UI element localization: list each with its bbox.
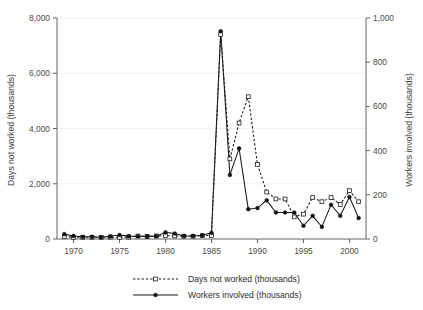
y-axis-right-tick-label: 1,000	[373, 13, 394, 23]
y-axis-right-tick-label: 800	[373, 57, 387, 67]
data-point-marker	[182, 234, 186, 238]
data-point-marker	[320, 200, 324, 204]
y-axis-right-title: Workers involved (thousands)	[404, 73, 414, 187]
data-point-marker	[338, 214, 342, 218]
data-point-marker	[311, 214, 315, 218]
series-line-1	[64, 31, 358, 237]
series-line-0	[64, 35, 358, 238]
data-point-marker	[246, 95, 250, 99]
data-point-marker	[127, 234, 131, 238]
data-point-marker	[265, 198, 269, 202]
data-point-marker	[99, 235, 103, 239]
x-axis-tick-label: 1970	[64, 246, 83, 256]
data-point-marker	[256, 206, 260, 210]
y-axis-left-tick-label: 4,000	[29, 124, 50, 134]
y-axis-right-tick-label: 200	[373, 190, 387, 200]
data-point-marker	[90, 235, 94, 239]
data-point-marker	[173, 232, 177, 236]
data-point-marker	[228, 173, 232, 177]
data-point-marker	[63, 232, 67, 236]
data-point-marker	[274, 197, 278, 201]
data-point-marker	[329, 203, 333, 207]
data-point-marker	[274, 211, 278, 215]
legend-label-text: Workers involved (thousands)	[188, 290, 302, 300]
x-axis-tick-label: 1980	[156, 246, 175, 256]
data-point-marker	[81, 235, 85, 239]
chart-container: 02,0004,0006,0008,000 02004006008001,000…	[0, 0, 423, 310]
data-point-marker	[292, 211, 296, 215]
data-point-marker	[200, 233, 204, 237]
y-axis-right: 02004006008001,000	[366, 13, 394, 244]
data-point-marker	[338, 203, 342, 207]
x-axis-tick-label: 2000	[340, 246, 359, 256]
data-point-marker	[108, 234, 112, 238]
x-axis: 1970197519801985199019952000	[57, 239, 366, 256]
data-point-marker	[302, 224, 306, 228]
data-point-marker	[136, 234, 140, 238]
data-point-marker	[72, 234, 76, 238]
data-point-marker	[348, 195, 352, 199]
x-axis-tick-label: 1985	[202, 246, 221, 256]
data-point-marker	[246, 207, 250, 211]
legend: Days not worked (thousands)Workers invol…	[133, 274, 302, 300]
y-axis-right-tick-label: 600	[373, 101, 387, 111]
data-point-marker	[237, 121, 241, 125]
data-point-marker	[145, 234, 149, 238]
x-axis-tick-label: 1975	[110, 246, 129, 256]
data-point-marker	[219, 29, 223, 33]
y-axis-left-tick-label: 6,000	[29, 68, 50, 78]
data-point-marker	[237, 147, 241, 151]
series-lines	[64, 31, 358, 237]
y-axis-left-tick-label: 0	[45, 234, 50, 244]
y-axis-left-tick-label: 2,000	[29, 179, 50, 189]
data-point-marker	[154, 234, 158, 238]
y-axis-left-title: Days not worked (thousands)	[6, 74, 16, 186]
x-axis-tick-label: 1995	[294, 246, 313, 256]
data-point-marker	[320, 225, 324, 229]
y-axis-right-tick-label: 0	[373, 234, 378, 244]
data-point-marker	[292, 215, 296, 219]
data-point-marker	[118, 233, 122, 237]
data-point-marker	[357, 200, 361, 204]
data-point-marker	[283, 197, 287, 201]
data-point-marker	[357, 216, 361, 220]
data-point-marker	[311, 196, 315, 200]
y-axis-left-tick-label: 8,000	[29, 13, 50, 23]
data-point-marker	[164, 231, 168, 235]
data-point-marker	[265, 190, 269, 194]
gridlines	[57, 18, 366, 184]
legend-marker	[154, 277, 158, 281]
data-point-marker	[256, 163, 260, 167]
data-point-marker	[283, 211, 287, 215]
legend-marker	[154, 293, 158, 297]
line-chart-figure: 02,0004,0006,0008,000 02004006008001,000…	[0, 0, 423, 310]
x-axis-tick-label: 1990	[248, 246, 267, 256]
y-axis-left: 02,0004,0006,0008,000	[29, 13, 57, 244]
y-axis-right-tick-label: 400	[373, 146, 387, 156]
data-point-marker	[210, 231, 214, 235]
legend-label-text: Days not worked (thousands)	[188, 274, 300, 284]
data-point-marker	[302, 212, 306, 216]
data-point-marker	[348, 189, 352, 193]
data-point-marker	[191, 234, 195, 238]
data-point-marker	[329, 196, 333, 200]
series-markers	[62, 29, 360, 239]
data-point-marker	[228, 157, 232, 161]
